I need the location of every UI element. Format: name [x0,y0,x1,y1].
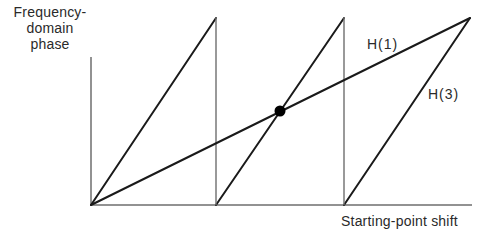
h1-series-label: H(1) [367,36,398,52]
intersection-marker [275,106,286,117]
h3-ramp-3 [344,18,470,205]
x-axis-label: Starting-point shift [341,213,458,229]
y-axis-label: Frequency- domain phase [10,4,90,52]
y-axis-label-line-2: domain [10,20,90,36]
h3-series-label: H(3) [428,86,459,102]
y-axis-label-line-3: phase [10,36,90,52]
h3-ramp-1 [91,18,216,205]
y-axis-label-line-1: Frequency- [10,4,90,20]
